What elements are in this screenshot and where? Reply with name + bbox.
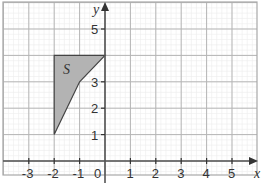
y-tick-label: 5 xyxy=(91,22,98,37)
x-axis-label: x xyxy=(253,166,261,181)
y-tick-label: 2 xyxy=(91,101,98,116)
major-grid xyxy=(3,2,257,175)
y-axis-label: y xyxy=(91,2,100,17)
y-tick-label: 1 xyxy=(91,128,98,143)
x-tick-label: -3 xyxy=(22,166,34,181)
x-tick-label: 3 xyxy=(177,166,184,181)
x-tick-label: 1 xyxy=(126,166,133,181)
origin-label: 0 xyxy=(94,166,101,181)
x-tick-label: -1 xyxy=(73,166,85,181)
x-tick-label: -2 xyxy=(47,166,59,181)
shape-s-label: S xyxy=(63,62,70,77)
x-tick-label: 2 xyxy=(152,166,159,181)
y-tick-label: 3 xyxy=(91,75,98,90)
y-axis-arrow-icon xyxy=(101,2,109,11)
x-tick-label: 4 xyxy=(203,166,210,181)
coordinate-grid: S -3-2-1123451235 x y 0 xyxy=(0,0,266,186)
x-tick-label: 5 xyxy=(228,166,235,181)
